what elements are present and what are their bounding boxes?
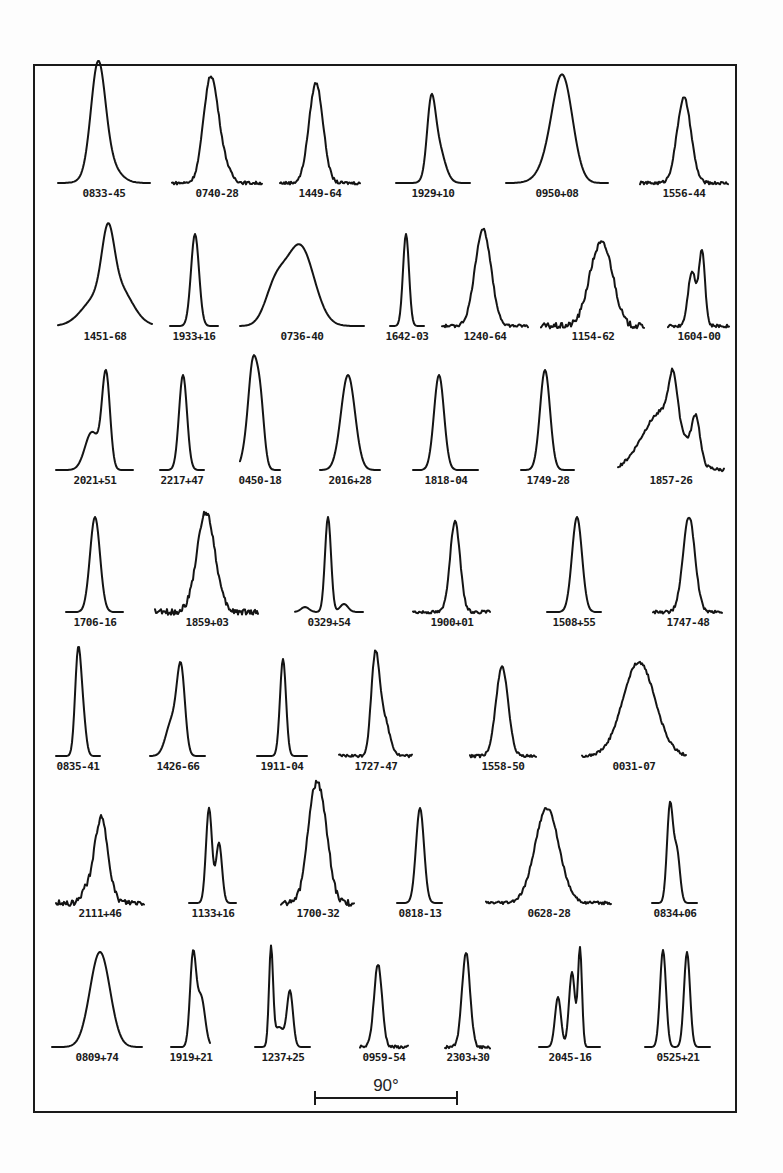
pulsar-name-label: 0950+08 [536,187,579,200]
profile-curve [645,950,710,1047]
profile-curve [257,659,307,756]
profile-curve [58,223,152,325]
pulse-profile: 0736-40 [240,244,364,343]
profile-curve [66,517,123,612]
pulse-profile: 1700-32 [281,781,354,920]
profile-curve [618,369,724,472]
pulse-profile: 1818-04 [413,375,478,487]
profile-curve [150,662,205,756]
profile-curve [360,965,408,1048]
pulse-profile: 2303+30 [445,953,490,1064]
pulse-profile: 1154-62 [541,241,644,343]
pulse-profile: 1933+16 [170,234,218,343]
pulsar-name-label: 1929+10 [412,187,455,200]
pulsar-name-label: 2021+51 [74,474,118,487]
pulse-profile: 0833-45 [58,61,150,200]
pulsar-name-label: 0628-28 [528,907,571,920]
pulsar-name-label: 1240-64 [464,330,508,343]
pulsar-name-label: 1133+16 [192,907,236,920]
profiles-group: 0833-450740-281449-641929+100950+081556-… [52,61,729,1064]
profile-curve [155,512,258,615]
pulse-profile: 0329+54 [295,517,363,629]
pulsar-name-label: 0835-41 [57,760,101,773]
profile-curve [396,94,470,183]
profile-curve [486,808,611,904]
pulse-profile: 1706-16 [66,517,123,629]
profile-curve [470,666,536,757]
profile-curve [58,61,150,183]
pulse-profile-grid: 0833-450740-281449-641929+100950+081556-… [0,0,783,1173]
profile-curve [413,521,490,614]
pulse-profile: 0959-54 [360,965,408,1064]
pulsar-name-label: 1727-47 [355,760,398,773]
pulse-profile: 2217+47 [160,375,204,487]
profile-curve [172,77,262,185]
profile-curve [547,517,601,612]
profile-curve [541,241,644,328]
pulse-profile: 1857-26 [618,369,724,487]
pulsar-name-label: 1857-26 [650,474,694,487]
pulse-profile: 1449-64 [280,83,360,200]
profile-curve [240,355,280,470]
profile-curve [397,808,442,903]
pulsar-name-label: 1859+03 [186,616,229,629]
profile-curve [52,952,142,1047]
pulse-profile: 1558-50 [470,666,536,773]
scale-bar-label: 90° [373,1076,399,1095]
profile-curve [652,802,697,903]
pulsar-name-label: 2217+47 [161,474,204,487]
pulsar-name-label: 0818-13 [399,907,442,920]
pulsar-name-label: 1451-68 [84,330,127,343]
pulse-profile: 1929+10 [396,94,470,200]
pulse-profile: 2021+51 [56,370,133,487]
profile-curve [240,244,364,326]
pulse-profile: 1133+16 [189,808,236,920]
pulsar-name-label: 2111+46 [79,907,123,920]
pulse-profile: 0950+08 [506,74,608,200]
pulse-profile: 0525+21 [645,950,710,1064]
pulsar-name-label: 2045-16 [549,1051,593,1064]
pulsar-name-label: 1508+55 [553,616,596,629]
pulse-profile: 1919+21 [170,950,214,1064]
profile-curve [668,250,729,327]
profile-curve [653,518,722,614]
pulsar-name-label: 1558-50 [482,760,525,773]
pulse-profile: 1451-68 [58,223,152,343]
pulse-profile: 1747-48 [653,518,722,629]
pulsar-name-label: 2016+28 [329,474,372,487]
pulsar-name-label: 0450-18 [239,474,282,487]
profile-curve [640,97,728,184]
pulse-profile: 2016+28 [320,375,380,487]
pulsar-name-label: 1749-28 [527,474,570,487]
pulsar-name-label: 1933+16 [173,330,217,343]
pulse-profile: 0834+06 [652,802,697,920]
pulsar-name-label: 1747-48 [667,616,710,629]
pulse-profile: 1727-47 [339,650,412,773]
pulse-profile: 1859+03 [155,512,258,629]
pulse-profile: 0031-07 [582,662,686,773]
pulsar-name-label: 1426-66 [157,760,201,773]
profile-curve [339,650,412,757]
scale-bar: 90° [315,1076,457,1105]
pulse-profile: 1508+55 [547,517,601,629]
pulsar-name-label: 0809+74 [76,1051,120,1064]
profile-curve [442,229,528,328]
profile-curve [189,808,236,903]
pulse-profile: 1642-03 [386,234,429,343]
pulsar-name-label: 0833-45 [83,187,126,200]
pulsar-name-label: 0736-40 [281,330,324,343]
pulse-profile: 0628-28 [486,808,611,920]
profile-curve [170,234,218,326]
pulse-profile: 1237+25 [255,945,310,1064]
profile-curve [413,375,478,470]
pulse-profile: 1604-00 [668,250,729,343]
pulsar-name-label: 1449-64 [299,187,343,200]
profile-curve [255,945,310,1047]
pulse-profile: 2111+46 [56,815,144,920]
pulsar-name-label: 1154-62 [572,330,615,343]
pulse-profile: 0740-28 [172,77,262,201]
pulse-profile: 1556-44 [640,97,728,200]
profile-curve [390,234,424,326]
pulsar-name-label: 1706-16 [74,616,118,629]
pulsar-name-label: 1556-44 [663,187,707,200]
